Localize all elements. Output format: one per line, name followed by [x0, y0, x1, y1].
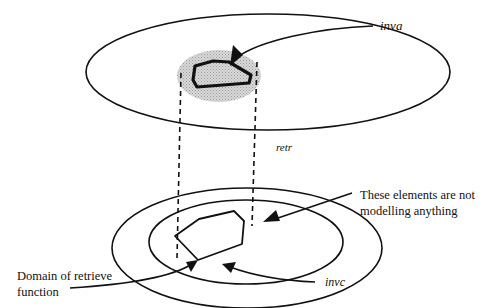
invc-label: invc [325, 275, 346, 289]
not-modelling-label-line2: modelling anything [360, 204, 458, 218]
inva-label: inva [380, 18, 403, 33]
bottom-polygon [175, 211, 244, 260]
invc-arrow-line [230, 267, 315, 282]
domain-label-line2: function [17, 285, 59, 299]
retr-label: retr [276, 141, 293, 153]
dashed-projection-left [177, 73, 181, 258]
not-modelling-arrowhead-icon [263, 210, 280, 222]
inva-arrow-line [236, 26, 373, 58]
shaded-image-region [177, 50, 261, 102]
domain-label-line1: Domain of retrieve [17, 269, 113, 283]
invc-arrowhead-icon [222, 262, 236, 273]
not-modelling-label-line1: These elements are not [360, 188, 475, 202]
diagram-canvas: inva retr invc These elements are not mo… [0, 0, 499, 308]
